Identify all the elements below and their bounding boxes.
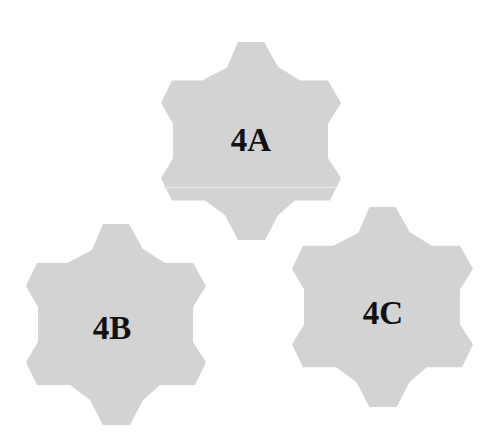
gear-label-4c: 4C [363, 297, 403, 330]
gear-label-4a: 4A [231, 124, 271, 157]
gear-label-4b: 4B [93, 312, 132, 345]
gear-4a-seam-line [163, 187, 338, 188]
